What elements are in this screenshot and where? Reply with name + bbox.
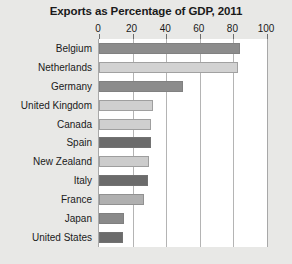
bar-category-label: Japan <box>0 213 92 224</box>
bar-row: United Kingdom <box>0 96 292 115</box>
x-tick-label-100: 100 <box>258 23 275 34</box>
bar <box>99 213 124 224</box>
bar-category-label: United States <box>0 232 92 243</box>
bar <box>99 119 151 130</box>
bar-row: United States <box>0 228 292 247</box>
bar <box>99 194 144 205</box>
bar-row: Canada <box>0 115 292 134</box>
bar <box>99 137 151 148</box>
bar <box>99 100 153 111</box>
bar-category-label: Belgium <box>0 43 92 54</box>
bar-track <box>99 77 183 96</box>
bar-row: Italy <box>0 171 292 190</box>
bar-row: Germany <box>0 77 292 96</box>
bar <box>99 232 123 243</box>
bar-track <box>99 228 123 247</box>
bar-row: Netherlands <box>0 58 292 77</box>
bar <box>99 43 240 54</box>
bar <box>99 156 149 167</box>
bar-category-label: Canada <box>0 119 92 130</box>
bar-track <box>99 58 238 77</box>
chart-title: Exports as Percentage of GDP, 2011 <box>0 5 292 17</box>
x-tick-label-80: 80 <box>227 23 238 34</box>
bar-track <box>99 190 144 209</box>
bar-row: Japan <box>0 209 292 228</box>
bar-rows: BelgiumNetherlandsGermanyUnited KingdomC… <box>0 39 292 247</box>
bar-track <box>99 115 151 134</box>
bar-track <box>99 96 153 115</box>
bar-category-label: Spain <box>0 137 92 148</box>
bar <box>99 62 238 73</box>
bar-row: New Zealand <box>0 152 292 171</box>
bar-row: France <box>0 190 292 209</box>
bar-category-label: Germany <box>0 81 92 92</box>
bar-category-label: Netherlands <box>0 62 92 73</box>
x-tick-label-20: 20 <box>126 23 137 34</box>
bar-track <box>99 134 151 153</box>
x-axis-tick-labels: 020406080100 <box>98 23 266 36</box>
x-tick-label-0: 0 <box>95 23 101 34</box>
bar-category-label: Italy <box>0 175 92 186</box>
bar-chart-figure: Exports as Percentage of GDP, 2011 02040… <box>0 0 292 264</box>
bar-category-label: United Kingdom <box>0 100 92 111</box>
bar-track <box>99 39 240 58</box>
bar-track <box>99 152 149 171</box>
bar <box>99 81 183 92</box>
bar-category-label: New Zealand <box>0 156 92 167</box>
bar-track <box>99 171 148 190</box>
x-tick-label-40: 40 <box>160 23 171 34</box>
bar-row: Spain <box>0 134 292 153</box>
bar <box>99 175 148 186</box>
bar-category-label: France <box>0 194 92 205</box>
x-tick-label-60: 60 <box>193 23 204 34</box>
bar-track <box>99 209 124 228</box>
bar-row: Belgium <box>0 39 292 58</box>
